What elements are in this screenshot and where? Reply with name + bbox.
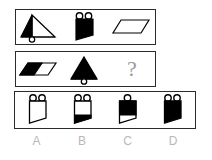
- banner-all-black-icon: [68, 11, 102, 43]
- triangle-all-black-icon: [63, 54, 107, 84]
- banner-bottom-black-icon: [66, 93, 100, 127]
- banner-white-icon: [21, 93, 55, 127]
- matrix-cell-r1c2: [62, 10, 108, 44]
- answer-option-b[interactable]: [60, 92, 105, 128]
- parallelogram-white-icon: [111, 17, 153, 37]
- answer-option-d[interactable]: [150, 92, 195, 128]
- answer-option-a[interactable]: [15, 92, 60, 128]
- matrix-cell-r2c2: [62, 52, 108, 86]
- option-label-b: B: [60, 131, 106, 151]
- matrix-cell-r1c3: [109, 10, 155, 44]
- answer-options-panel: [14, 91, 196, 129]
- banner-top-black-icon: [111, 93, 145, 127]
- option-label-c: C: [105, 131, 151, 151]
- matrix-cell-r1c1: [16, 10, 62, 44]
- matrix-cell-r2c1: [16, 52, 62, 86]
- visual-analogy-puzzle: ?: [0, 0, 212, 160]
- answer-option-c[interactable]: [105, 92, 150, 128]
- matrix-cell-r2c3-question: ?: [109, 52, 155, 86]
- answer-option-labels: A B C D: [14, 131, 196, 151]
- option-label-a: A: [14, 131, 60, 151]
- option-label-d: D: [151, 131, 197, 151]
- banner-all-black-option-icon: [156, 93, 190, 127]
- matrix-row-1: [15, 9, 156, 45]
- parallelogram-left-half-black-icon: [18, 59, 60, 79]
- matrix-row-2: ?: [15, 51, 156, 87]
- triangle-left-half-black-icon: [17, 12, 61, 42]
- question-mark: ?: [127, 58, 137, 80]
